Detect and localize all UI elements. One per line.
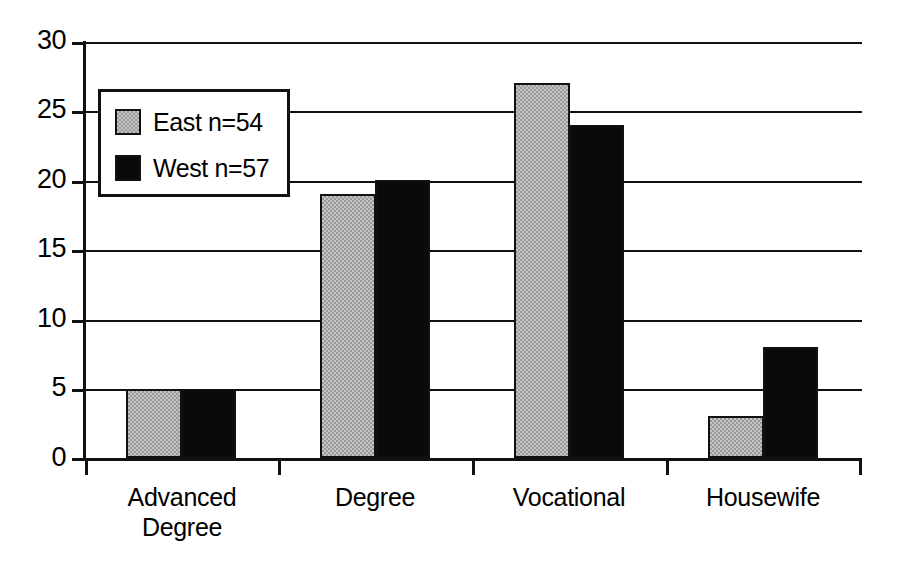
x-tick-mark-2 (472, 459, 475, 475)
x-category-label-housewife: Housewife (666, 482, 860, 512)
x-category-label-line-1: Housewife (666, 482, 860, 512)
bar-west-degree (375, 180, 430, 458)
y-tick-label-15: 15 (6, 235, 66, 262)
x-tick-mark-1 (278, 459, 281, 475)
y-tick-label-5: 5 (6, 374, 66, 401)
legend-label-east: East n=54 (153, 110, 263, 135)
bar-east-advanced-degree (126, 389, 182, 458)
bar-east-housewife (708, 416, 764, 458)
chart-legend: East n=54 West n=57 (98, 89, 290, 197)
x-tick-mark-3 (666, 459, 669, 475)
bar-west-vocational (569, 125, 624, 458)
gridline-15 (85, 250, 862, 252)
bar-west-advanced-degree (181, 389, 236, 458)
bar-east-degree (320, 194, 376, 458)
x-category-label-degree: Degree (278, 482, 472, 512)
legend-swatch-west-icon (115, 155, 141, 181)
bar-chart: 30 25 20 15 10 5 0 (0, 0, 900, 572)
x-category-label-advanced-degree: Advanced Degree (85, 482, 279, 542)
gridline-10 (85, 320, 862, 322)
x-tick-mark-0 (85, 459, 88, 475)
y-tick-label-0: 0 (6, 444, 66, 471)
y-tick-label-10: 10 (6, 305, 66, 332)
y-tick-label-20: 20 (6, 166, 66, 193)
legend-swatch-east-icon (115, 109, 141, 135)
legend-label-west: West n=57 (153, 156, 269, 181)
x-category-label-line-1: Degree (278, 482, 472, 512)
y-axis-tick-labels: 30 25 20 15 10 5 0 (0, 0, 66, 572)
legend-entry-west: West n=57 (115, 145, 287, 191)
y-tick-label-30: 30 (6, 27, 66, 54)
x-category-label-line-1: Advanced (85, 482, 279, 512)
gridline-30 (85, 42, 862, 44)
x-category-label-vocational: Vocational (472, 482, 666, 512)
x-tick-mark-4 (859, 459, 862, 475)
bar-west-housewife (763, 347, 818, 458)
x-category-label-line-1: Vocational (472, 482, 666, 512)
x-category-label-line-2: Degree (85, 512, 279, 542)
bar-east-vocational (514, 83, 570, 458)
legend-entry-east: East n=54 (115, 99, 287, 145)
y-tick-label-25: 25 (6, 96, 66, 123)
